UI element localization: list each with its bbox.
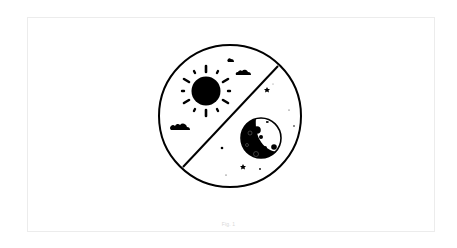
moon-icon xyxy=(241,118,281,158)
day-night-illustration xyxy=(0,0,457,248)
day-night-circle-icon xyxy=(159,45,301,187)
figure-caption: Fig. 1 xyxy=(0,221,457,227)
canvas: Fig. 1 xyxy=(0,0,457,248)
